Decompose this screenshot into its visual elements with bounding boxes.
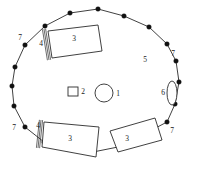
north-rectangle-label: 3	[72, 34, 76, 43]
corner-label-southeast: 7	[170, 126, 174, 135]
interior-area-label: 5	[143, 55, 147, 64]
southwest-entrance-hatch-label: 4	[36, 121, 40, 130]
central-square-label: 2	[81, 87, 85, 96]
east-oval-feature-label: 6	[161, 88, 165, 97]
corner-post-4	[165, 42, 170, 47]
corner-post-6	[177, 80, 182, 85]
corner-post-15	[12, 104, 17, 109]
corner-post-5	[174, 59, 179, 64]
southwest-rectangle-label: 3	[68, 134, 72, 143]
southeast-rectangle-label: 3	[125, 134, 129, 143]
corner-post-17	[13, 65, 18, 70]
corner-post-8	[165, 120, 170, 125]
corner-post-14	[23, 125, 28, 130]
central-circle	[95, 84, 113, 102]
north-entrance-hatch-label: 4	[39, 39, 43, 48]
corner-label-northeast: 7	[171, 49, 175, 58]
central-square	[68, 87, 78, 96]
east-oval-feature	[167, 81, 177, 105]
corner-label-southwest: 7	[12, 123, 16, 132]
corner-post-19	[43, 24, 48, 29]
site-plan-figure: 3334412657777	[0, 0, 224, 174]
corner-post-3	[147, 25, 152, 30]
corner-post-18	[23, 43, 28, 48]
corner-post-16	[10, 84, 15, 89]
corner-post-0	[68, 11, 73, 16]
corner-label-northwest: 7	[18, 33, 22, 42]
corner-post-2	[122, 14, 127, 19]
corner-post-1	[96, 7, 101, 12]
plan-drawing: 3334412657777	[0, 0, 224, 174]
central-circle-label: 1	[116, 89, 120, 98]
